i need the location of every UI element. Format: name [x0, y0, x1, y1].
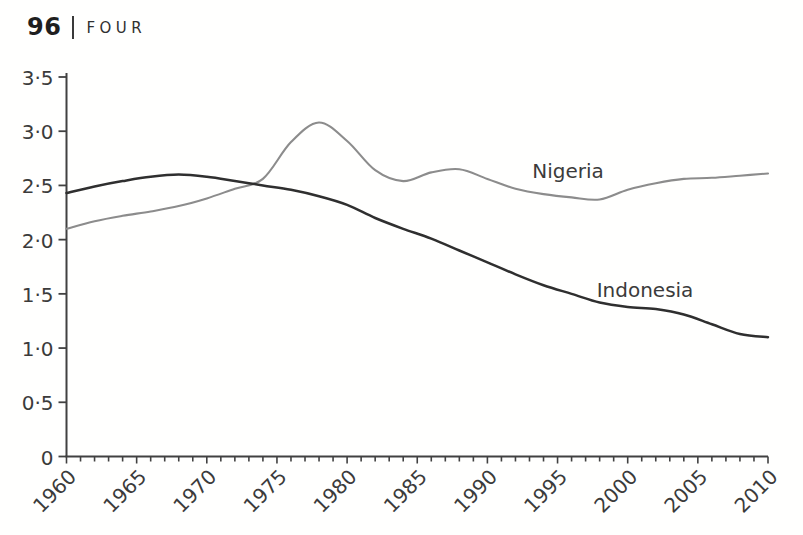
y-tick-label: 0·5 [22, 391, 54, 415]
x-tick-label: 1985 [379, 465, 432, 518]
y-tick-label: 2·0 [22, 229, 54, 253]
x-tick-label: 1965 [98, 465, 151, 518]
y-tick-label: 1·5 [22, 283, 54, 307]
x-tick-label: 1995 [519, 465, 572, 518]
x-tick-label: 2005 [659, 465, 712, 518]
y-tick-label: 3·5 [22, 66, 54, 90]
x-tick-label: 2000 [589, 465, 642, 518]
x-tick-label: 2010 [730, 465, 783, 518]
y-tick-label: 3·0 [22, 120, 54, 144]
series-label-nigeria: Nigeria [532, 159, 604, 183]
y-tick-label: 1·0 [22, 337, 54, 361]
series-line-indonesia [67, 175, 769, 338]
y-tick-label: 0 [41, 446, 54, 470]
nigeria-indonesia-line-chart: 00·51·01·52·02·53·03·5196019651970197519… [0, 0, 803, 535]
series-label-indonesia: Indonesia [597, 278, 694, 302]
x-tick-label: 1970 [168, 465, 221, 518]
x-tick-label: 1990 [449, 465, 502, 518]
book-page: 96 FOUR 00·51·01·52·02·53·03·51960196519… [0, 0, 803, 535]
x-tick-label: 1980 [309, 465, 362, 518]
x-tick-label: 1960 [28, 465, 81, 518]
y-tick-label: 2·5 [22, 174, 54, 198]
x-tick-label: 1975 [239, 465, 292, 518]
